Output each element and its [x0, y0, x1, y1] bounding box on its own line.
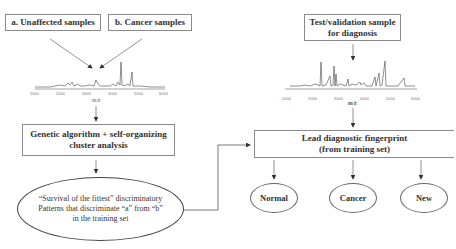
outcome-new-label: New	[416, 193, 432, 203]
test-label-line2: for diagnosis	[328, 28, 377, 39]
outcome-new: New	[400, 183, 448, 213]
pattern-line2: Patterns that discriminate “a” from “b”	[38, 204, 163, 214]
unaffected-samples-box: a. Unaffected samples	[5, 14, 101, 31]
right-spectrum	[285, 61, 417, 89]
algorithm-label-line1: Genetic algorithm + self-organizing	[30, 129, 166, 140]
tick-label: 4000	[360, 96, 369, 101]
algorithm-label-line2: cluster analysis	[69, 140, 128, 151]
left-spectrum	[35, 62, 165, 89]
tick-label: 2000	[308, 96, 317, 101]
discriminatory-patterns-ellipse: “Survival of the fittest” discriminatory…	[17, 177, 184, 241]
tick-label: 5000	[386, 96, 395, 101]
cancer-samples-box: b. Cancer samples	[108, 14, 192, 31]
unaffected-samples-label: a. Unaffected samples	[11, 17, 95, 28]
tick-label: 3000	[82, 91, 91, 96]
tick-label: 5000	[134, 91, 143, 96]
arrow-ellipse-to-lead	[183, 145, 250, 210]
genetic-algorithm-box: Genetic algorithm + self-organizing clus…	[22, 124, 175, 156]
lead-fingerprint-box: Lead diagnostic fingerprint (from traini…	[254, 130, 454, 158]
lead-label-line1: Lead diagnostic fingerprint	[302, 133, 408, 144]
pattern-line3: in the training set	[73, 214, 129, 224]
pattern-line1: “Survival of the fittest” discriminatory	[39, 194, 163, 204]
test-label-line1: Test/validation sample	[310, 17, 396, 28]
outcome-normal: Normal	[250, 183, 298, 213]
tick-label: 3000	[334, 96, 343, 101]
mz-axis-label: m/z	[92, 97, 100, 103]
test-validation-box: Test/validation sample for diagnosis	[304, 14, 401, 41]
tick-label: 6000	[411, 96, 420, 101]
tick-label: 4000	[108, 91, 117, 96]
tick-label: 1000	[30, 91, 39, 96]
tick-label: 6000	[159, 91, 168, 96]
lead-label-line2: (from training set)	[319, 144, 390, 155]
tick-label: 2000	[56, 91, 65, 96]
tick-label: 1000	[282, 96, 291, 101]
arrow-a-to-spectrum	[50, 39, 92, 68]
cancer-samples-label: b. Cancer samples	[115, 17, 185, 28]
outcome-cancer-label: Cancer	[340, 193, 366, 203]
outcome-cancer: Cancer	[329, 183, 377, 213]
mz-axis-label: m/z	[348, 100, 357, 106]
outcome-normal-label: Normal	[260, 193, 288, 203]
